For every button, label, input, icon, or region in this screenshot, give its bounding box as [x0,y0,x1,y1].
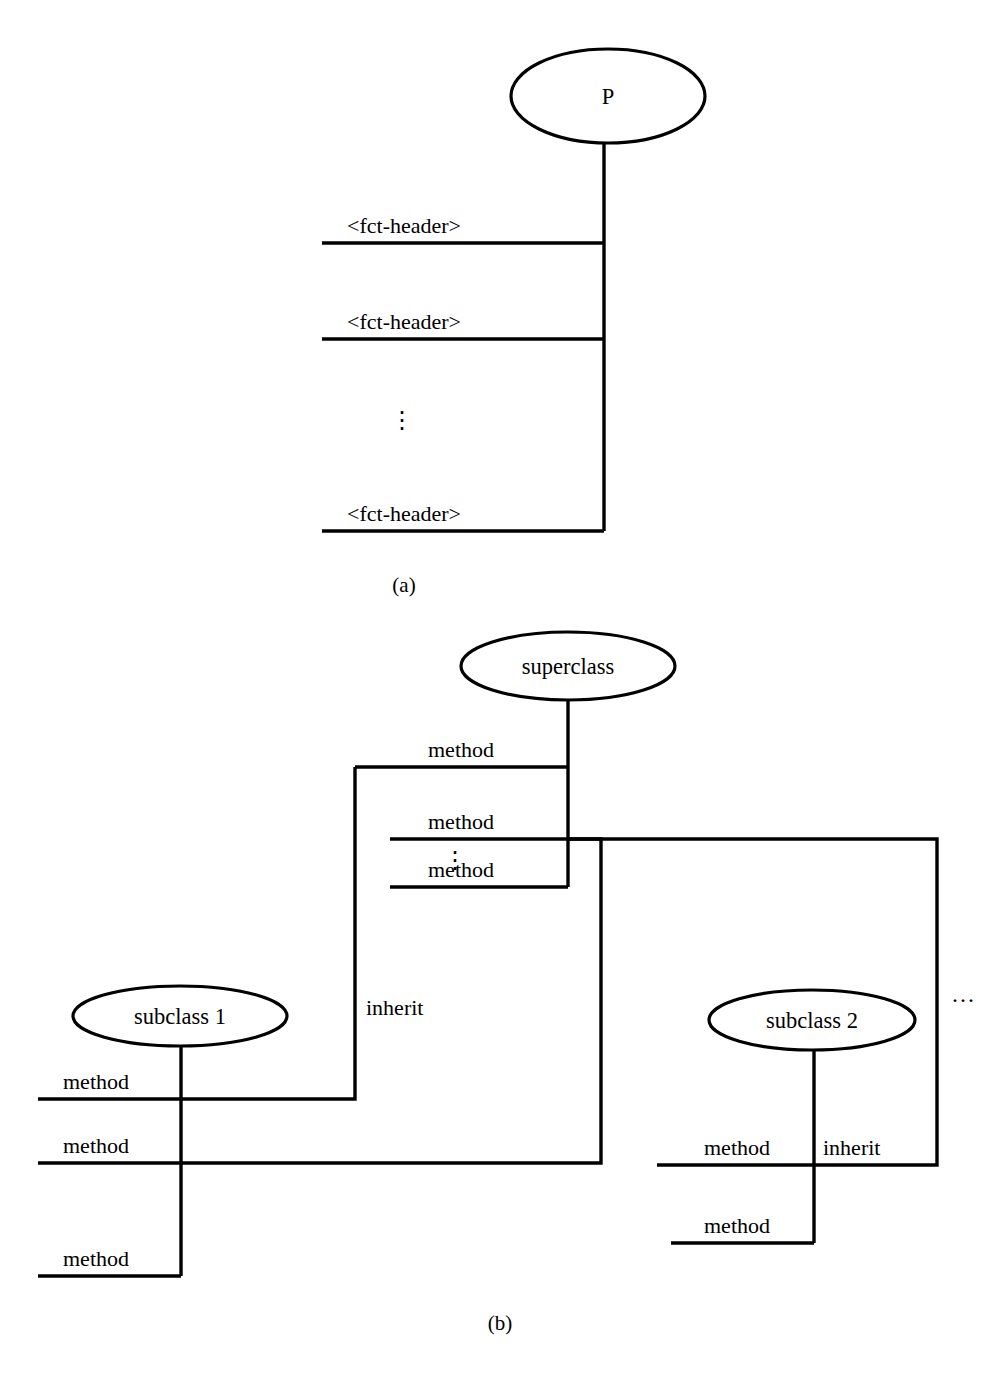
panel-a: P <fct-header> <fct-header> ⋮ <fct-heade… [322,49,705,597]
subclass1-method-label-2: method [63,1133,129,1158]
inherit-label-2: inherit [823,1135,880,1160]
panel-a-caption: (a) [392,573,415,597]
panel-a-header-label-2: <fct-header> [347,309,461,334]
superclass-method-label-3: method [428,857,494,882]
superclass-method-label-1: method [428,737,494,762]
superclass-method-label-2: method [428,809,494,834]
subclass2-method-label-1: method [704,1135,770,1160]
subclass1-method-label-1: method [63,1069,129,1094]
panel-b-caption: (b) [488,1311,513,1335]
panel-a-ellipsis: ⋮ [390,407,414,433]
panel-a-header-label-1: <fct-header> [347,213,461,238]
inherit-label-1: inherit [366,995,423,1020]
node-subclass2-label: subclass 2 [766,1008,858,1033]
figure-diagram: P <fct-header> <fct-header> ⋮ <fct-heade… [0,0,1007,1373]
inherit-path-1 [181,767,355,1099]
panel-b: superclass method method ⋮ method inheri… [38,632,975,1335]
node-superclass-label: superclass [522,654,614,679]
node-p-label: P [602,84,615,109]
subclass1-method-label-3: method [63,1246,129,1271]
diagram-canvas: P <fct-header> <fct-header> ⋮ <fct-heade… [0,0,1007,1373]
panel-a-header-label-3: <fct-header> [347,501,461,526]
node-subclass1-label: subclass 1 [134,1004,226,1029]
subclass2-method-label-2: method [704,1213,770,1238]
more-subclasses-ellipsis: ··· [951,987,975,1013]
